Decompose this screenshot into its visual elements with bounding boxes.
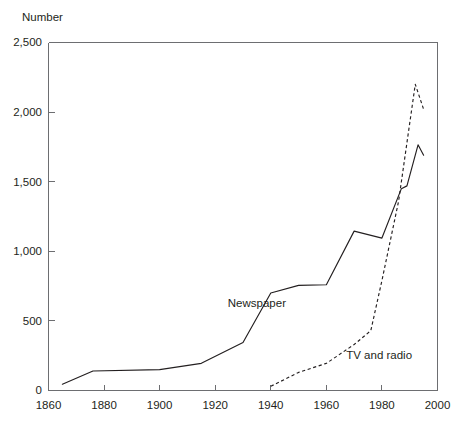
y-axis-title: Number (22, 11, 63, 23)
plot-border (49, 43, 438, 391)
y-tick-label-1000: 1,000 (13, 245, 42, 257)
line-chart: Number 2,500 2,000 1,500 1,000 500 0 (0, 0, 461, 432)
x-tick-label-1940: 1940 (258, 399, 284, 411)
series-line-tv-and-radio (271, 84, 424, 386)
x-tick-label-1960: 1960 (314, 399, 340, 411)
y-tick-label-0: 0 (36, 384, 42, 396)
y-tick-label-2500: 2,500 (13, 36, 42, 48)
x-tick-label-2000: 2000 (425, 399, 451, 411)
x-tick-label-1900: 1900 (147, 399, 173, 411)
x-tick-label-1880: 1880 (91, 399, 117, 411)
x-tick-label-1860: 1860 (36, 399, 62, 411)
y-tick-label-1500: 1,500 (13, 176, 42, 188)
y-axis-labels: 2,500 2,000 1,500 1,000 500 0 (13, 36, 42, 396)
x-axis-ticks (49, 385, 438, 391)
chart-figure: Number 2,500 2,000 1,500 1,000 500 0 (0, 0, 461, 432)
series-label-newspaper: Newspaper (228, 297, 286, 309)
x-axis-labels: 1860 1880 1900 1920 1940 1960 1980 2000 (36, 399, 451, 411)
series-label-tv-and-radio: TV and radio (346, 349, 412, 361)
x-tick-label-1980: 1980 (369, 399, 395, 411)
axis-frame (49, 43, 438, 391)
x-tick-label-1920: 1920 (202, 399, 228, 411)
y-tick-label-500: 500 (23, 315, 42, 327)
y-axis-ticks (49, 43, 55, 391)
y-tick-label-2000: 2,000 (13, 106, 42, 118)
